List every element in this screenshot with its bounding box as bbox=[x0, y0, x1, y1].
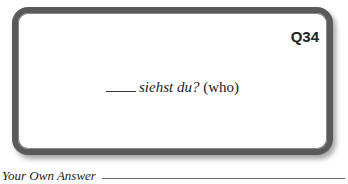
question-number: Q34 bbox=[291, 28, 319, 45]
question-prompt: siehst du? (who) bbox=[18, 77, 327, 96]
prompt-text: siehst du? bbox=[139, 79, 199, 95]
prompt-hint: (who) bbox=[203, 79, 239, 95]
answer-label: Your Own Answer bbox=[2, 168, 96, 183]
answer-line[interactable] bbox=[102, 178, 345, 179]
flashcard: Q34 siehst du? (who) bbox=[12, 7, 333, 155]
answer-area: Your Own Answer bbox=[2, 166, 348, 182]
answer-blank bbox=[106, 77, 136, 92]
